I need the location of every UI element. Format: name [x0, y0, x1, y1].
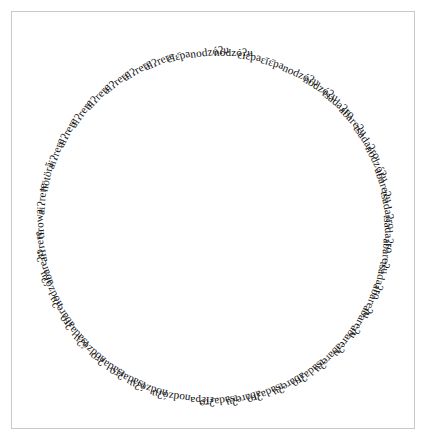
figure-root: nodzóʔuεīε̄paεīε̄panodzóʔunodzóʔutsadaʔr…	[0, 0, 428, 442]
radial-word-ring: nodzóʔuεīε̄paεīε̄panodzóʔunodzóʔutsadaʔr…	[0, 0, 428, 442]
ring-word-label: εīε̄pa	[190, 395, 214, 406]
ring-word-label: εīε̄pa	[237, 49, 262, 63]
